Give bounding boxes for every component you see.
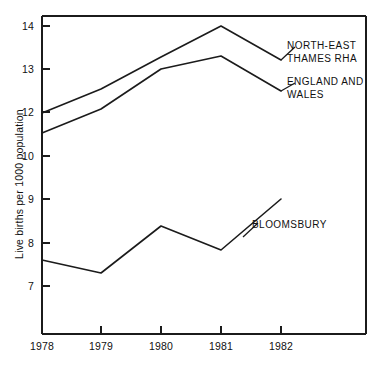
x-tick-label-1978: 1978 (30, 340, 54, 352)
series-line-england-wales (42, 56, 281, 133)
x-tick-label-1982: 1982 (269, 340, 293, 352)
y-tick-label-14: 14 (4, 20, 34, 32)
x-tick-label-1981: 1981 (209, 340, 233, 352)
chart-figure: Live births per 1000 population 14 13 12… (0, 0, 378, 378)
series-label-bloomsbury: BLOOMSBURY (252, 219, 327, 232)
x-tick-label-1980: 1980 (149, 340, 173, 352)
y-tick-label-13: 13 (4, 63, 34, 75)
series-label-england-wales: ENGLAND AND WALES (287, 76, 364, 101)
y-tick-label-8: 8 (4, 237, 34, 249)
y-tick-label-12: 12 (4, 106, 34, 118)
series-label-ne-thames: NORTH-EAST THAMES RHA (287, 40, 357, 65)
y-tick-marks (42, 26, 50, 286)
x-tick-marks (42, 326, 281, 334)
y-tick-label-9: 9 (4, 193, 34, 205)
y-tick-label-7: 7 (4, 280, 34, 292)
x-tick-label-1979: 1979 (89, 340, 113, 352)
series-line-bloomsbury (42, 199, 281, 273)
y-tick-label-10: 10 (4, 150, 34, 162)
